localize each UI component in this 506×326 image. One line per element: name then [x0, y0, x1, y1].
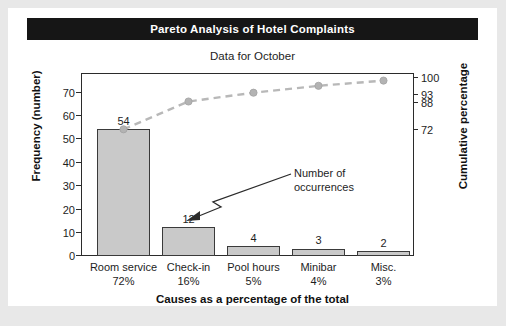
y-tick-mark-20: [76, 209, 81, 210]
x-tick-pool-hours: Pool hours 5%: [217, 261, 290, 289]
x-tick-check-in: Check-in 16%: [152, 261, 225, 289]
y2-tick-label-72: 72: [421, 125, 433, 136]
y-tick-label-40: 40: [41, 158, 75, 169]
y2-tick-mark-88: [413, 102, 418, 103]
x-tick-minibar: Minibar 4%: [282, 261, 355, 289]
y-axis-title-right: Cumulative percentage: [457, 31, 469, 221]
x-tick-check-in-pct: 16%: [152, 275, 225, 289]
x-tick-pool-hours-name: Pool hours: [227, 261, 280, 273]
y-tick-mark-0: [76, 255, 81, 256]
x-tick-room-service-pct: 72%: [87, 275, 160, 289]
annotation-line-2: occurrences: [294, 181, 354, 193]
bar-room-service[interactable]: [97, 129, 150, 256]
x-tick-room-service: Room service 72%: [87, 261, 160, 289]
bar-minibar[interactable]: [292, 249, 345, 257]
bar-value-check-in: 12: [162, 214, 215, 225]
y-tick-mark-50: [76, 138, 81, 139]
x-tick-check-in-name: Check-in: [167, 261, 210, 273]
x-tick-pool-hours-pct: 5%: [217, 275, 290, 289]
y-tick-label-20: 20: [41, 205, 75, 216]
y-tick-mark-60: [76, 115, 81, 116]
y-tick-mark-30: [76, 185, 81, 186]
y2-tick-label-88: 88: [421, 98, 433, 109]
y-tick-mark-70: [76, 92, 81, 93]
y-tick-mark-40: [76, 162, 81, 163]
y-tick-mark-10: [76, 232, 81, 233]
bar-misc[interactable]: [357, 251, 410, 256]
bar-value-pool-hours: 4: [227, 233, 280, 244]
annotation-line-1: Number of: [294, 167, 345, 179]
y2-tick-mark-100: [413, 77, 418, 78]
bar-pool-hours[interactable]: [227, 246, 280, 256]
y-tick-label-70: 70: [41, 88, 75, 99]
x-tick-misc: Misc. 3%: [347, 261, 420, 289]
bar-value-room-service: 54: [97, 116, 150, 127]
x-tick-minibar-name: Minibar: [300, 261, 336, 273]
chart-card: Pareto Analysis of Hotel Complaints Data…: [8, 8, 497, 306]
screenshot-root: Pareto Analysis of Hotel Complaints Data…: [0, 0, 506, 326]
y-tick-label-50: 50: [41, 134, 75, 145]
y-tick-label-30: 30: [41, 181, 75, 192]
y-tick-label-0: 0: [41, 251, 75, 262]
bar-value-minibar: 3: [292, 235, 345, 246]
y-tick-label-60: 60: [41, 111, 75, 122]
bar-check-in[interactable]: [162, 227, 215, 256]
x-tick-misc-name: Misc.: [371, 261, 397, 273]
y2-tick-mark-72: [413, 129, 418, 130]
x-tick-misc-pct: 3%: [347, 275, 420, 289]
y2-tick-label-100: 100: [421, 73, 439, 84]
plot-area: Frequency (number) Cumulative percentage…: [8, 8, 497, 306]
x-tick-room-service-name: Room service: [90, 261, 157, 273]
bar-value-misc: 2: [357, 238, 410, 249]
y-tick-label-10: 10: [41, 228, 75, 239]
x-axis-title: Causes as a percentage of the total: [8, 293, 497, 305]
y2-tick-mark-93: [413, 94, 418, 95]
annotation-number-of-occurrences: Number of occurrences: [294, 166, 404, 195]
x-tick-minibar-pct: 4%: [282, 275, 355, 289]
